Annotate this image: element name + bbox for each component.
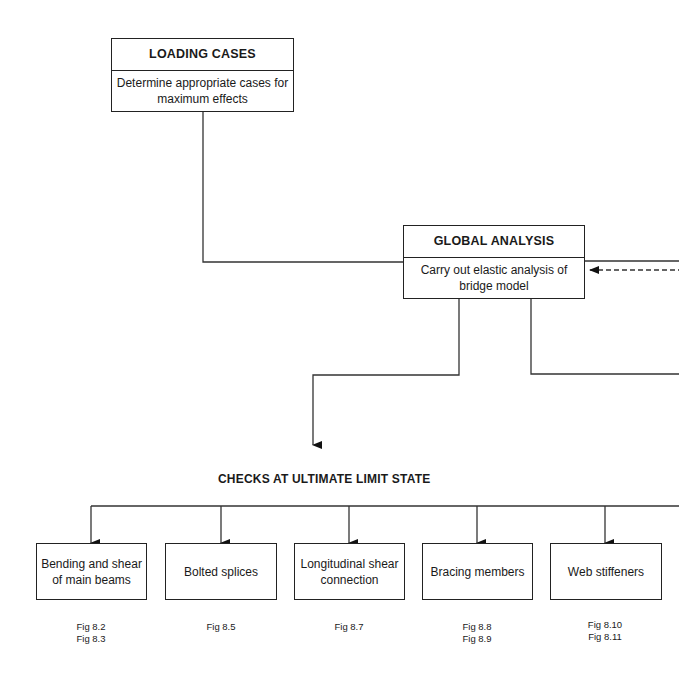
fig-ref-bending: Fig 8.2 Fig 8.3 [41, 621, 141, 645]
fig-ref: Fig 8.3 [41, 633, 141, 645]
fig-ref: Fig 8.5 [171, 621, 271, 633]
fig-ref: Fig 8.11 [555, 631, 655, 643]
global-analysis-description: Carry out elastic analysis of bridge mod… [404, 258, 584, 294]
loading-cases-title: LOADING CASES [112, 39, 293, 71]
check-web-stiffeners: Web stiffeners [550, 543, 662, 600]
fig-ref: Fig 8.8 [427, 621, 527, 633]
section-title: CHECKS AT ULTIMATE LIMIT STATE [218, 472, 430, 486]
fig-ref-longitudinal: Fig 8.7 [299, 621, 399, 633]
check-longitudinal-shear: Longitudinal shear connection [294, 543, 405, 600]
fig-ref: Fig 8.10 [555, 619, 655, 631]
global-analysis-box: GLOBAL ANALYSIS Carry out elastic analys… [403, 225, 585, 299]
fig-ref: Fig 8.9 [427, 633, 527, 645]
check-bracing-members: Bracing members [422, 543, 533, 600]
check-bolted-splices: Bolted splices [165, 543, 277, 600]
fig-ref: Fig 8.2 [41, 621, 141, 633]
check-bending-shear: Bending and shear of main beams [36, 543, 147, 600]
fig-ref-bolted: Fig 8.5 [171, 621, 271, 633]
fig-ref: Fig 8.7 [299, 621, 399, 633]
loading-cases-box: LOADING CASES Determine appropriate case… [111, 38, 294, 112]
global-analysis-title: GLOBAL ANALYSIS [404, 226, 584, 258]
fig-ref-bracing: Fig 8.8 Fig 8.9 [427, 621, 527, 645]
loading-cases-description: Determine appropriate cases for maximum … [112, 71, 293, 107]
fig-ref-web-stiffeners: Fig 8.10 Fig 8.11 [555, 619, 655, 643]
